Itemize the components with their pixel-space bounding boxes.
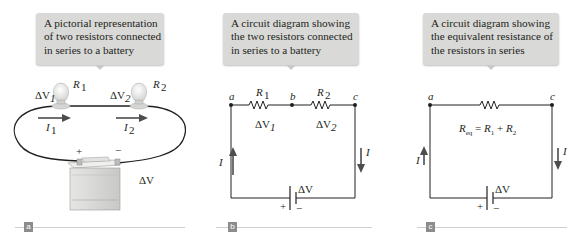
label-r2: R	[152, 78, 160, 90]
label-current-left: I	[218, 156, 224, 168]
node-c	[353, 103, 357, 107]
label-i2-sub: 2	[129, 124, 135, 136]
circuit-wire	[231, 101, 355, 198]
node-c	[550, 103, 554, 107]
node-a	[428, 103, 432, 107]
panel-c-divider	[417, 227, 567, 228]
label-node-a: a	[428, 90, 434, 102]
panel-a-tag: a	[24, 222, 33, 232]
label-dv: ΔV	[139, 174, 154, 186]
label-minus: −	[296, 202, 302, 214]
label-dv2: ΔV	[316, 118, 331, 130]
label-dv: ΔV	[298, 183, 313, 195]
label-current-right: I	[562, 145, 568, 157]
label-dv2-sub: 2	[331, 121, 337, 133]
label-r1: R	[255, 86, 263, 98]
label-dv1-sub: 1	[270, 121, 276, 133]
panel-b-circuit: a b c R 1 R 2 ΔV 1 ΔV 2 I I ΔV + −	[218, 86, 371, 214]
node-b	[290, 103, 294, 107]
car-battery-icon	[68, 157, 120, 210]
panel-c-circuit: a c Req = R1 + R2 I I ΔV + −	[415, 90, 568, 214]
label-node-c: c	[353, 90, 358, 102]
label-dv1-sub: 1	[50, 92, 56, 104]
label-dv1: ΔV	[35, 89, 50, 101]
label-current-left: I	[415, 154, 421, 166]
label-current-right: I	[365, 146, 371, 158]
label-dv: ΔV	[495, 183, 510, 195]
panel-b-tag: b	[228, 222, 237, 232]
label-dv2-sub: 2	[125, 92, 131, 104]
current-arrow-icon	[116, 114, 148, 122]
current-arrow-up-icon	[229, 147, 237, 175]
panel-b-divider	[216, 227, 372, 228]
label-r1-sub: 1	[264, 89, 270, 101]
circuit-diagrams: ΔV 1 R 1 ΔV 2 R 2 I 1 I 2 + − ΔV	[0, 0, 579, 245]
label-r1: R	[72, 78, 80, 90]
label-node-c: c	[550, 90, 555, 102]
current-arrow-icon	[38, 114, 71, 122]
circuit-wire	[430, 101, 552, 198]
node-a	[229, 103, 233, 107]
label-node-b: b	[290, 90, 296, 102]
label-plus: +	[477, 200, 483, 212]
label-node-a: a	[229, 90, 235, 102]
label-r1-sub: 1	[81, 81, 87, 93]
label-r2-sub: 2	[161, 81, 167, 93]
label-i1-sub: 1	[51, 124, 57, 136]
label-r2: R	[316, 86, 324, 98]
current-arrow-down-icon	[357, 148, 365, 173]
current-arrow-down-icon	[554, 148, 562, 170]
label-plus: +	[280, 200, 286, 212]
label-dv1: ΔV	[255, 118, 270, 130]
panel-a-pictorial: ΔV 1 R 1 ΔV 2 R 2 I 1 I 2 + − ΔV	[14, 78, 185, 210]
panel-a-divider	[15, 227, 185, 228]
label-minus: −	[115, 144, 121, 156]
label-dv2: ΔV	[110, 89, 125, 101]
lightbulb-icon	[130, 83, 148, 109]
label-plus: +	[76, 145, 82, 157]
panel-c-tag: c	[426, 222, 435, 232]
label-req-equation: Req = R1 + R2	[458, 122, 517, 137]
current-arrow-up-icon	[420, 146, 428, 165]
label-minus: −	[493, 202, 499, 214]
label-r2-sub: 2	[325, 89, 331, 101]
